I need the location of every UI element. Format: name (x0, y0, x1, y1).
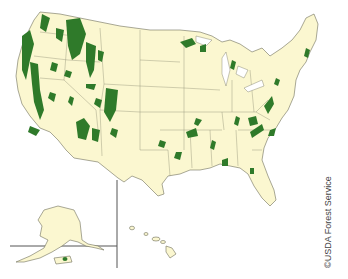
alaska (16, 206, 104, 262)
map-canvas (0, 0, 348, 279)
credit-label: ©USDA Forest Service (323, 176, 333, 268)
puerto-rico (54, 256, 72, 264)
national-forest-map: ©USDA Forest Service (0, 0, 348, 279)
hawaii (130, 226, 177, 258)
